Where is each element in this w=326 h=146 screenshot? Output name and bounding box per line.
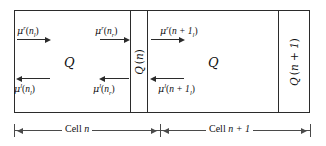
flux-label-mu-r-n-l: μr(nl): [17, 26, 39, 37]
dim-arrowhead-cell-n-plus-1-right: [301, 128, 307, 134]
paren-close: ): [192, 84, 195, 94]
flux-label-mu-l-n-plus-1-l: μl(n + 1l): [158, 84, 195, 95]
flux-label-mu-l-n-r: μl(nr): [93, 84, 115, 95]
paren-close: ): [288, 38, 300, 42]
flux-label-mu-r-n-r: μr(nr): [95, 26, 117, 37]
dim-arrowhead-cell-n-plus-1-left: [163, 128, 169, 134]
dim-argument: n: [84, 123, 89, 134]
region-label-q-cell-n: Q: [64, 55, 75, 70]
cell-flux-diagram: μr(nl) μr(nr) μl(nl) μl(nr) Q Q (n) μr(n…: [0, 0, 326, 146]
divider-cell-n-right: [130, 10, 131, 113]
paren-close: ): [133, 49, 145, 53]
q-symbol: Q: [288, 77, 300, 86]
interface-argument: n + 1: [288, 42, 300, 71]
arrow-right-n-plus-1-l-top: [151, 39, 180, 40]
arrow-left-n-plus-1-l-bottom: [155, 78, 184, 79]
arrow-right-n-r-top: [100, 39, 125, 40]
paren-open: (: [133, 60, 145, 64]
paren-close: ): [36, 26, 39, 36]
dim-prefix: Cell: [209, 123, 228, 134]
paren-open: (: [288, 71, 300, 75]
interface-argument: n: [133, 53, 145, 60]
dim-label-cell-n: Cell n: [62, 123, 92, 134]
divider-interface-n-right: [147, 10, 148, 113]
dim-prefix: Cell: [65, 123, 84, 134]
paren-close: ): [112, 84, 115, 94]
flux-argument: n + 1: [169, 84, 190, 94]
flux-label-mu-r-n-plus-1-l: μr(n + 1l): [160, 26, 198, 37]
dim-argument: n + 1: [228, 123, 250, 134]
paren-close: ): [32, 84, 35, 94]
region-label-q-cell-n-plus-1: Q: [208, 55, 219, 70]
dim-tick-right-end: [310, 124, 311, 137]
dim-label-cell-n-plus-1: Cell n + 1: [206, 123, 253, 134]
interface-label-q-n-plus-1: Q (n + 1): [288, 30, 300, 94]
flux-label-mu-l-n-l: μl(nl): [14, 84, 35, 95]
dim-arrowhead-cell-n-left: [17, 128, 23, 134]
arrow-left-n-r-bottom: [104, 78, 129, 79]
arrow-right-n-l-top: [17, 39, 46, 40]
arrow-left-n-l-bottom: [21, 78, 50, 79]
paren-close: ): [114, 26, 117, 36]
paren-close: ): [194, 26, 197, 36]
dim-arrowhead-cell-n-right: [151, 128, 157, 134]
q-symbol: Q: [133, 66, 145, 75]
divider-cell-n-plus-1-right: [278, 10, 279, 113]
flux-argument: n + 1: [172, 26, 193, 36]
interface-label-q-n: Q (n): [133, 36, 145, 88]
